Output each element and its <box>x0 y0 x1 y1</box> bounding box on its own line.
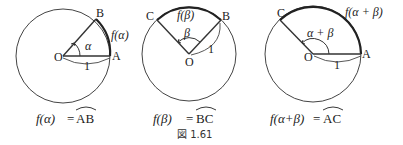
label-radius: 1 <box>334 58 340 72</box>
label-arc: f(β) <box>177 8 194 22</box>
diagram-beta: O B C 1 β f(β) f(β) = BC 図 1.61 <box>142 7 236 140</box>
label-c: C <box>146 9 154 23</box>
label-a: A <box>112 49 121 63</box>
caption-eq: = <box>67 111 74 126</box>
caption-lhs: f(α) <box>36 111 55 126</box>
label-arc: f(α + β) <box>345 5 383 19</box>
label-a: A <box>362 47 371 61</box>
label-o: O <box>185 55 194 69</box>
caption-rhs: AB <box>76 111 94 126</box>
figure-number: 図 1.61 <box>177 129 212 140</box>
label-o: O <box>304 50 313 64</box>
diagram-alpha: O A B 1 α f(α) f(α) = AB <box>16 6 129 126</box>
caption-lhs: f(α+β) <box>270 111 304 126</box>
caption-eq: = <box>313 111 320 126</box>
caption-lhs: f(β) <box>153 111 172 126</box>
label-radius: 1 <box>208 42 214 56</box>
caption-rhs: BC <box>196 111 213 126</box>
figure-1-61: O A B 1 α f(α) f(α) = AB O B C 1 β f(β) … <box>0 0 403 145</box>
label-arc: f(α) <box>111 28 129 42</box>
arc-notation-icon <box>323 107 343 110</box>
caption-eq: = <box>186 111 193 126</box>
label-b: B <box>96 6 104 20</box>
label-o: O <box>54 50 63 64</box>
label-b: B <box>222 9 230 23</box>
arc-notation-icon <box>196 107 216 110</box>
radius-ob <box>189 20 221 54</box>
label-angle: α <box>85 39 92 53</box>
label-c: C <box>277 6 285 20</box>
diagram-alpha-plus-beta: O A C 1 α + β f(α + β) f(α+β) = AC <box>265 5 383 126</box>
label-radius: 1 <box>84 59 90 73</box>
caption-rhs: AC <box>323 111 341 126</box>
label-angle: α + β <box>307 26 333 40</box>
label-angle: β <box>183 26 190 40</box>
arc-notation-icon <box>76 107 96 110</box>
